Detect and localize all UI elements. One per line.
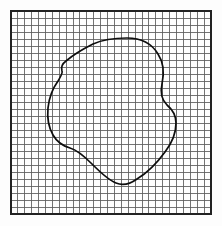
grid-figure-svg — [0, 0, 222, 226]
figure-container — [0, 0, 222, 226]
figure-background — [0, 0, 222, 226]
